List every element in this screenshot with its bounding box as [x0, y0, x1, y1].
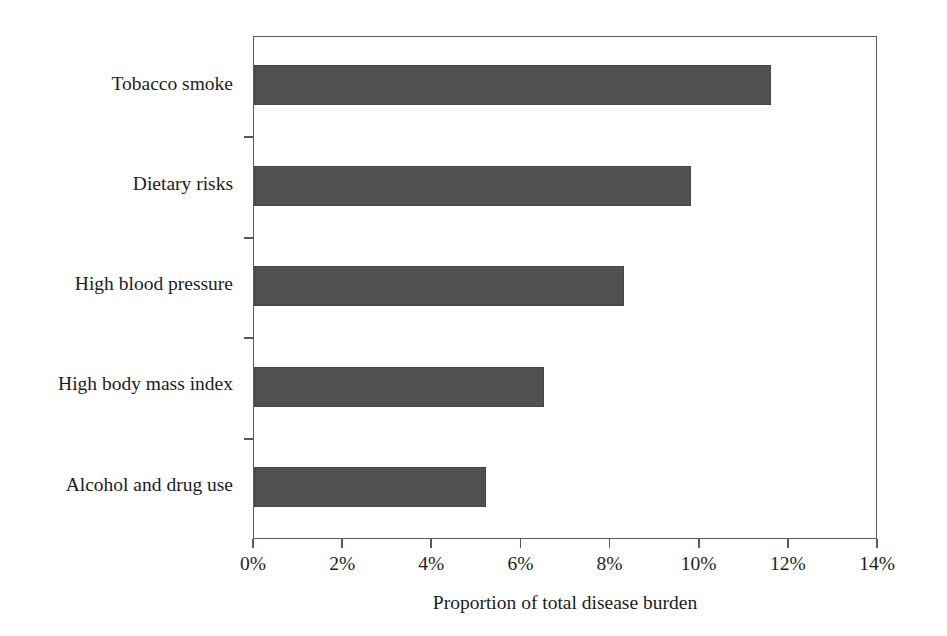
x-axis-tick-10 — [698, 539, 700, 548]
x-axis-tick-label-14: 14% — [859, 553, 895, 575]
x-axis-tick-14 — [876, 539, 878, 548]
x-axis-tick-2 — [341, 539, 343, 548]
x-axis-tick-6 — [520, 539, 522, 548]
y-axis-tick-4 — [244, 438, 253, 440]
x-axis-tick-label-4: 4% — [418, 553, 444, 575]
y-axis-tick-3 — [244, 337, 253, 339]
x-axis-tick-4 — [430, 539, 432, 548]
x-axis-title: Proportion of total disease burden — [253, 592, 877, 614]
bar-high-blood-pressure — [254, 266, 624, 306]
x-axis-tick-label-0: 0% — [240, 553, 266, 575]
x-axis-tick-label-8: 8% — [597, 553, 623, 575]
y-axis-tick-2 — [244, 237, 253, 239]
x-axis-tick-label-6: 6% — [507, 553, 533, 575]
y-axis-tick-1 — [244, 136, 253, 138]
x-axis-tick-label-10: 10% — [681, 553, 717, 575]
bar-chart: Tobacco smoke Dietary risks High blood p… — [0, 0, 947, 636]
plot-area — [253, 36, 877, 539]
category-label-high-body-mass-index: High body mass index — [0, 373, 243, 395]
x-axis-tick-label-12: 12% — [770, 553, 806, 575]
category-label-tobacco-smoke: Tobacco smoke — [0, 73, 243, 95]
category-label-dietary-risks: Dietary risks — [0, 173, 243, 195]
bar-high-body-mass-index — [254, 367, 544, 407]
category-label-alcohol-and-drug-use: Alcohol and drug use — [0, 474, 243, 496]
bar-alcohol-and-drug-use — [254, 467, 486, 507]
bar-tobacco-smoke — [254, 65, 771, 105]
category-label-high-blood-pressure: High blood pressure — [0, 273, 243, 295]
x-axis-tick-0 — [252, 539, 254, 548]
bar-dietary-risks — [254, 166, 691, 206]
x-axis-tick-12 — [787, 539, 789, 548]
x-axis-tick-8 — [609, 539, 611, 548]
x-axis-tick-label-2: 2% — [329, 553, 355, 575]
